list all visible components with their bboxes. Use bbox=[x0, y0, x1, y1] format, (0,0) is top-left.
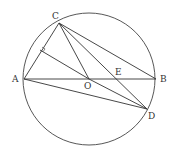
label-D: D bbox=[148, 111, 155, 121]
label-A: A bbox=[11, 74, 19, 84]
label-B: B bbox=[160, 74, 167, 84]
segments bbox=[24, 23, 156, 109]
label-E: E bbox=[115, 67, 122, 77]
segment-OD bbox=[89, 79, 147, 109]
label-O: O bbox=[84, 81, 91, 91]
geometry-diagram: A B C D O E bbox=[0, 0, 174, 148]
label-C: C bbox=[52, 11, 59, 21]
diagram-canvas: A B C D O E bbox=[0, 0, 174, 148]
